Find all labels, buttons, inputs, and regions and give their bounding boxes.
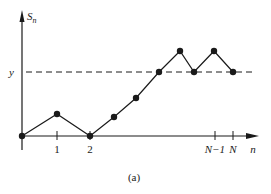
x-axis-arrow-icon bbox=[246, 133, 259, 139]
y-axis-arrow-icon bbox=[20, 10, 25, 22]
y-axis-label: Sn bbox=[27, 10, 37, 25]
tick-label-1: 1 bbox=[54, 143, 60, 155]
walk-path bbox=[22, 51, 233, 136]
y-axis bbox=[20, 10, 25, 150]
tick-label-n-minus-1: N−1 bbox=[204, 143, 225, 155]
tick-label-2: 2 bbox=[87, 143, 93, 155]
x-axis bbox=[22, 133, 259, 139]
tick-label-n: N bbox=[228, 143, 237, 155]
x-axis-label: n bbox=[250, 143, 256, 155]
random-walk-figure: Sn y 1 2 N−1 N n (a) bbox=[0, 0, 271, 194]
figure-caption: (a) bbox=[128, 171, 141, 184]
level-y-label: y bbox=[8, 66, 14, 78]
